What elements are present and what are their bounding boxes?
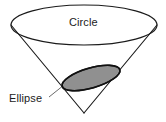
ellipse-section: [55, 60, 130, 96]
ellipse-label: Ellipse: [9, 92, 42, 104]
circle-label: Circle: [69, 16, 98, 28]
cone-diagram: Circle Ellipse: [0, 0, 166, 122]
